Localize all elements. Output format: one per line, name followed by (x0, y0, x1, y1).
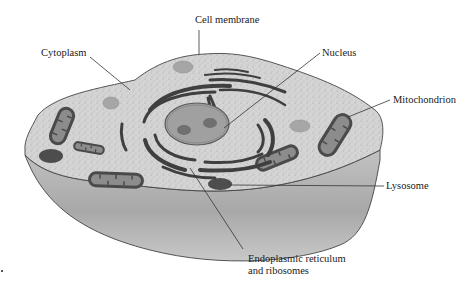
label-lysosome: Lysosome (386, 180, 429, 192)
vesicle (290, 120, 310, 132)
vesicle (173, 61, 193, 73)
nucleolus (177, 125, 191, 135)
nucleus (165, 103, 229, 145)
label-er-line1: Endoplasmic reticulum (248, 253, 346, 265)
mitochondrion (88, 171, 145, 189)
lysosome (39, 149, 63, 163)
vesicle (103, 97, 119, 109)
label-er-line2: and ribosomes (248, 265, 309, 277)
label-nucleus: Nucleus (322, 47, 356, 59)
cell-diagram (0, 0, 475, 285)
nucleolus (203, 118, 217, 128)
stray-mark (1, 270, 3, 272)
label-cytoplasm: Cytoplasm (41, 47, 87, 59)
label-mitochondrion: Mitochondrion (393, 94, 456, 106)
lysosome (208, 178, 232, 190)
label-cell-membrane: Cell membrane (195, 14, 259, 26)
